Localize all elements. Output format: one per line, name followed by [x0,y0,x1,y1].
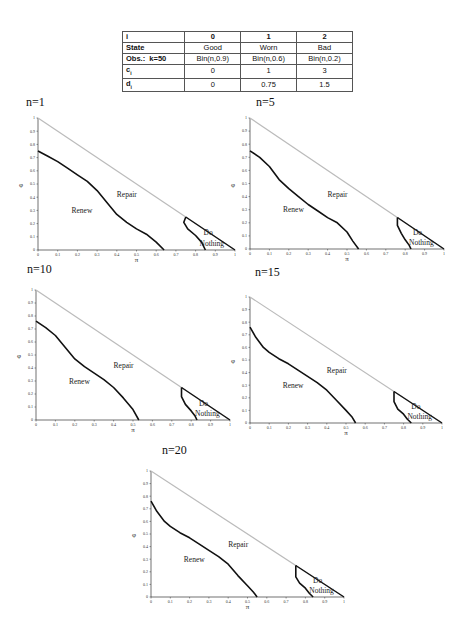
y-tick-label: 1 [146,468,148,473]
y-tick-label: 0.1 [143,582,148,587]
y-tick-label: 0.2 [143,569,148,574]
y-tick-label: 0.8 [143,494,148,499]
y-tick-label: 0.6 [143,519,148,524]
region-label-repair: Repair [228,540,248,549]
x-tick-label: 0.6 [264,599,269,604]
y-tick-label: 0 [146,594,148,599]
x-tick-label: 0.9 [322,599,327,604]
x-tick-label: 0.3 [206,599,211,604]
x-tick-label: 0.8 [303,599,308,604]
y-tick-label: 0.7 [143,506,148,511]
chart-plot: 00.10.20.30.40.50.60.70.80.9100.10.20.30… [0,0,469,641]
x-tick-label: 0.2 [187,599,192,604]
x-tick-label: 0.7 [284,599,289,604]
y-tick-label: 0.9 [143,481,148,486]
region-label-do-nothing: Nothing [309,586,334,595]
region-label-do-nothing: Do [313,576,322,585]
x-tick-label: 0 [150,599,152,604]
policy-boundary-line [151,501,257,597]
y-axis-label: φ [132,531,136,539]
x-tick-label: 1 [343,599,345,604]
x-tick-label: 0.1 [168,599,173,604]
x-axis-label: π [246,603,250,611]
x-tick-label: 0.4 [226,599,231,604]
y-tick-label: 0.4 [143,544,148,549]
region-label-renew: Renew [184,555,205,564]
y-tick-label: 0.5 [143,531,148,536]
y-tick-label: 0.3 [143,557,148,562]
